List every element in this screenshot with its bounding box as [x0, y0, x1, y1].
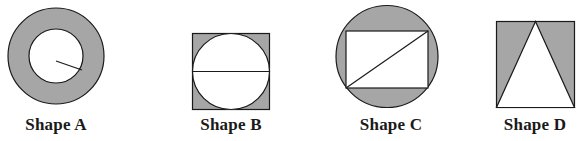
shape-a-label: Shape A [25, 115, 86, 135]
shape-d-label: Shape D [504, 115, 566, 135]
shape-d [497, 22, 575, 108]
shape-c-label: Shape C [360, 115, 422, 135]
shape-a [8, 8, 104, 104]
shapes-figure [0, 0, 581, 141]
shape-c [336, 6, 438, 108]
shape-b [193, 34, 270, 110]
shape-a-inner-circle [29, 29, 83, 83]
shape-b-label: Shape B [200, 115, 261, 135]
